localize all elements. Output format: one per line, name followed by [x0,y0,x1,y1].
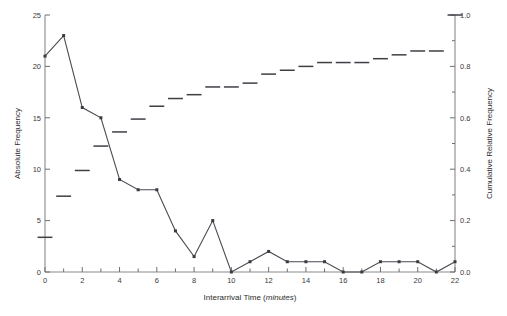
frequency-data-point [193,255,196,258]
frequency-data-point [304,260,307,263]
frequency-data-point [323,260,326,263]
chart-container: 0246810121416182022 0510152025 0.00.20.4… [0,0,507,316]
x-tick-label: 12 [264,276,272,285]
frequency-data-point [360,271,363,274]
frequency-data-point [81,106,84,109]
y-left-tick-label: 25 [33,11,41,20]
frequency-data-point [379,260,382,263]
frequency-data-point [342,271,345,274]
frequency-data-point [398,260,401,263]
y-right-tick-label: 0.2 [460,216,470,225]
y-left-tick-label: 20 [33,62,41,71]
frequency-data-point [416,260,419,263]
y-right-tick-label: 0.6 [460,114,470,123]
x-tick-label: 2 [80,276,84,285]
frequency-data-point [137,188,140,191]
frequency-data-point [435,271,438,274]
y-right-tick-label: 0.4 [460,165,470,174]
frequency-data-point [44,55,47,58]
frequency-data-point [118,178,121,181]
x-tick-label: 16 [339,276,347,285]
frequency-data-point [211,219,214,222]
frequency-data-point [249,260,252,263]
frequency-data-point [99,116,102,119]
y-left-tick-label: 0 [37,268,41,277]
x-axis-title: Interarrival Time (minutes) [204,293,297,302]
x-tick-label: 8 [192,276,196,285]
frequency-data-point [174,229,177,232]
x-tick-label: 0 [43,276,47,285]
x-tick-label: 6 [155,276,159,285]
x-tick-label: 14 [302,276,310,285]
x-tick-label: 4 [117,276,121,285]
x-tick-label: 10 [227,276,235,285]
y-left-tick-label: 15 [33,114,41,123]
frequency-data-point [286,260,289,263]
y-axis-right-title: Cumulative Relative Frequency [485,88,494,199]
frequency-data-point [454,260,457,263]
x-tick-label: 20 [414,276,422,285]
y-right-tick-label: 0.8 [460,62,470,71]
y-axis-left-title: Absolute Frequency [13,108,22,179]
x-tick-label: 22 [451,276,459,285]
frequency-data-point [267,250,270,253]
frequency-data-point [62,34,65,37]
interarrival-time-chart: 0246810121416182022 0510152025 0.00.20.4… [0,0,507,316]
x-tick-label: 18 [376,276,384,285]
y-left-tick-label: 10 [33,165,41,174]
y-left-tick-label: 5 [37,216,41,225]
y-right-tick-label: 0.0 [460,268,470,277]
frequency-data-point [230,271,233,274]
frequency-data-point [155,188,158,191]
